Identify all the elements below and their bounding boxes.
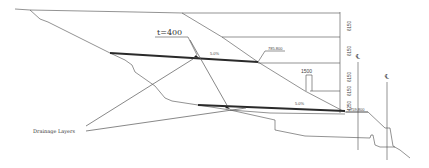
slope-lower-label: 5.0% (295, 101, 305, 106)
dim-label-5: 4250 (347, 100, 352, 111)
berm-width-label: 1500 (301, 68, 312, 74)
dim-label-2: 6150 (347, 45, 352, 56)
elev-upper-label: 785.800 (268, 46, 283, 51)
dim-label-3: 6150 (347, 71, 352, 82)
dim-label-1: 6150 (347, 20, 352, 31)
dim-label-4: 6150 (347, 85, 352, 96)
centerline-label-2: ℄ (384, 73, 389, 79)
drainage-label: Drainage Layers (33, 128, 75, 135)
elev-lower-label: 759.800 (350, 107, 365, 112)
slope-upper-label: 5.0% (210, 51, 220, 56)
label-layer: t=400 Drainage Layers 5.0% 5.0% 785.800 … (0, 0, 429, 168)
cross-section-diagram: t=400 Drainage Layers 5.0% 5.0% 785.800 … (0, 0, 429, 168)
centerline-label-1: ℄ (355, 53, 360, 59)
thickness-label: t=400 (157, 28, 182, 37)
